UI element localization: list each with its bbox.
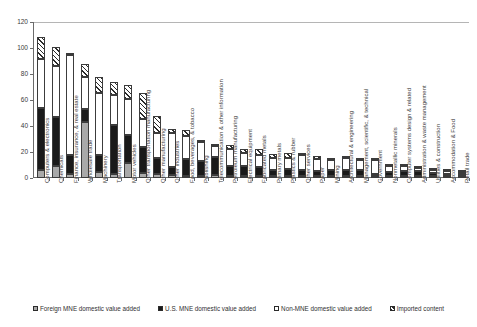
x-axis-category-label: Other services xyxy=(305,144,311,183)
x-axis-category-label: Accommodation & Food xyxy=(450,119,456,183)
x-axis-category-label: Other transportation manufacturing xyxy=(145,90,151,183)
x-axis-category-label: Fabricated metals xyxy=(261,135,267,183)
legend-swatch-foreign-mne-icon xyxy=(33,306,38,311)
x-axis-category-label: Other manufacturing xyxy=(160,128,166,183)
x-axis-category-label: Retail trade xyxy=(464,152,470,183)
x-axis-category-label: Wholesale trade xyxy=(87,140,93,183)
legend-item[interactable]: Imported content xyxy=(390,305,444,312)
x-axis-category-label: Food, beverages, & tobacco xyxy=(189,108,195,183)
x-axis-category-label: Mining xyxy=(334,165,340,183)
x-axis-category-label: Telecommunication & other information xyxy=(218,79,224,183)
legend-item[interactable]: Non-MNE domestic value added xyxy=(274,305,372,312)
legend-label: Non-MNE domestic value added xyxy=(281,305,372,312)
x-axis-category-label: Computers & electronics xyxy=(44,118,50,183)
x-axis-category-label: Architectural & engineering xyxy=(348,111,354,183)
legend-item[interactable]: Foreign MNE domestic value added xyxy=(33,305,140,312)
x-axis-category-label: Transportation xyxy=(116,145,122,183)
x-axis-category-label: Plastics & rubber xyxy=(290,138,296,183)
x-axis-category-label: Machinery xyxy=(102,155,108,183)
legend-label: U.S. MNE domestic value added xyxy=(165,305,256,312)
x-axis-category-label: Publishing xyxy=(203,155,209,183)
x-axis-category-label: Utilities & construction xyxy=(435,124,441,183)
legend-label: Imported content xyxy=(397,305,444,312)
chart-legend: Foreign MNE domestic value addedU.S. MNE… xyxy=(0,305,477,312)
x-axis-labels: Computers & electronicsChemicalsFinance,… xyxy=(0,0,477,327)
legend-item[interactable]: U.S. MNE domestic value added xyxy=(158,305,256,312)
x-axis-category-label: Petroleum manufacturing xyxy=(232,116,238,183)
x-axis-category-label: Motor vehicles xyxy=(131,144,137,183)
x-axis-category-label: Chemicals xyxy=(58,155,64,183)
x-axis-category-label: Government xyxy=(377,150,383,183)
x-axis-category-label: Electrical equipment xyxy=(247,129,253,183)
x-axis-category-label: Other industries xyxy=(174,141,180,183)
x-axis-category-label: Nonmetallic minerals xyxy=(392,127,398,183)
x-axis-category-label: Computer systems design & related xyxy=(406,88,412,183)
x-axis-category-label: Administration & waste management xyxy=(421,85,427,183)
x-axis-category-label: Primary metals xyxy=(276,143,282,183)
legend-swatch-imported-icon xyxy=(390,306,395,311)
x-axis-category-label: Management, scientific, & technical xyxy=(363,89,369,183)
legend-label: Foreign MNE domestic value added xyxy=(40,305,140,312)
stacked-bar-chart: 020406080100120 Computers & electronicsC… xyxy=(0,0,477,327)
legend-swatch-non-mne-icon xyxy=(274,306,279,311)
x-axis-category-label: Paper xyxy=(319,167,325,183)
x-axis-category-label: Finance, insurance, & real estate xyxy=(73,95,79,183)
legend-swatch-us-mne-icon xyxy=(158,306,163,311)
